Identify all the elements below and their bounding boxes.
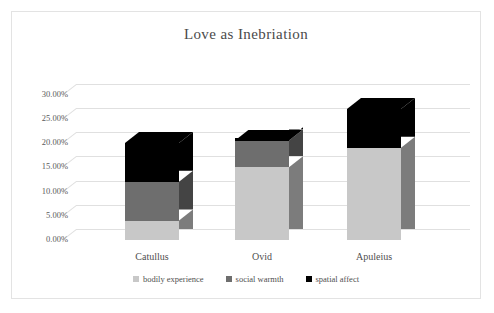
legend-swatch-icon — [306, 276, 312, 282]
bar-segment-side — [289, 156, 303, 229]
bar-segment-side — [401, 137, 415, 229]
bar-segment-side — [289, 127, 303, 129]
bar-segment-social-warmth[interactable] — [235, 141, 289, 168]
legend-label: spatial affect — [316, 274, 360, 284]
legend-label: social warmth — [236, 274, 284, 284]
bar-segment-bodily-experience[interactable] — [235, 167, 289, 240]
bar-segment-social-warmth[interactable] — [125, 182, 179, 221]
legend-item-social-warmth[interactable]: social warmth — [226, 274, 284, 284]
legend-item-spatial-affect[interactable]: spatial affect — [306, 274, 360, 284]
legend-label: bodily experience — [143, 274, 204, 284]
category-label-apuleius: Apuleius — [319, 251, 429, 262]
bar-segment-spatial-affect[interactable] — [125, 143, 179, 182]
bar-segment-side — [179, 171, 193, 210]
bar-segment-spatial-affect[interactable] — [347, 109, 401, 148]
legend-swatch-icon — [133, 276, 139, 282]
chart-legend: bodily experiencesocial warmthspatial af… — [12, 274, 480, 284]
bar-segment-bodily-experience[interactable] — [347, 148, 401, 240]
legend-item-bodily-experience[interactable]: bodily experience — [133, 274, 204, 284]
category-label-catullus: Catullus — [97, 251, 207, 262]
bar-segment-bodily-experience[interactable] — [125, 221, 179, 240]
bar-segment-side — [179, 210, 193, 229]
category-label-ovid: Ovid — [207, 251, 317, 262]
bars-layer: CatullusOvidApuleius — [12, 12, 482, 300]
chart-frame: Love as Inebriation 0.00%5.00%10.00%15.0… — [11, 11, 481, 299]
legend-swatch-icon — [226, 276, 232, 282]
